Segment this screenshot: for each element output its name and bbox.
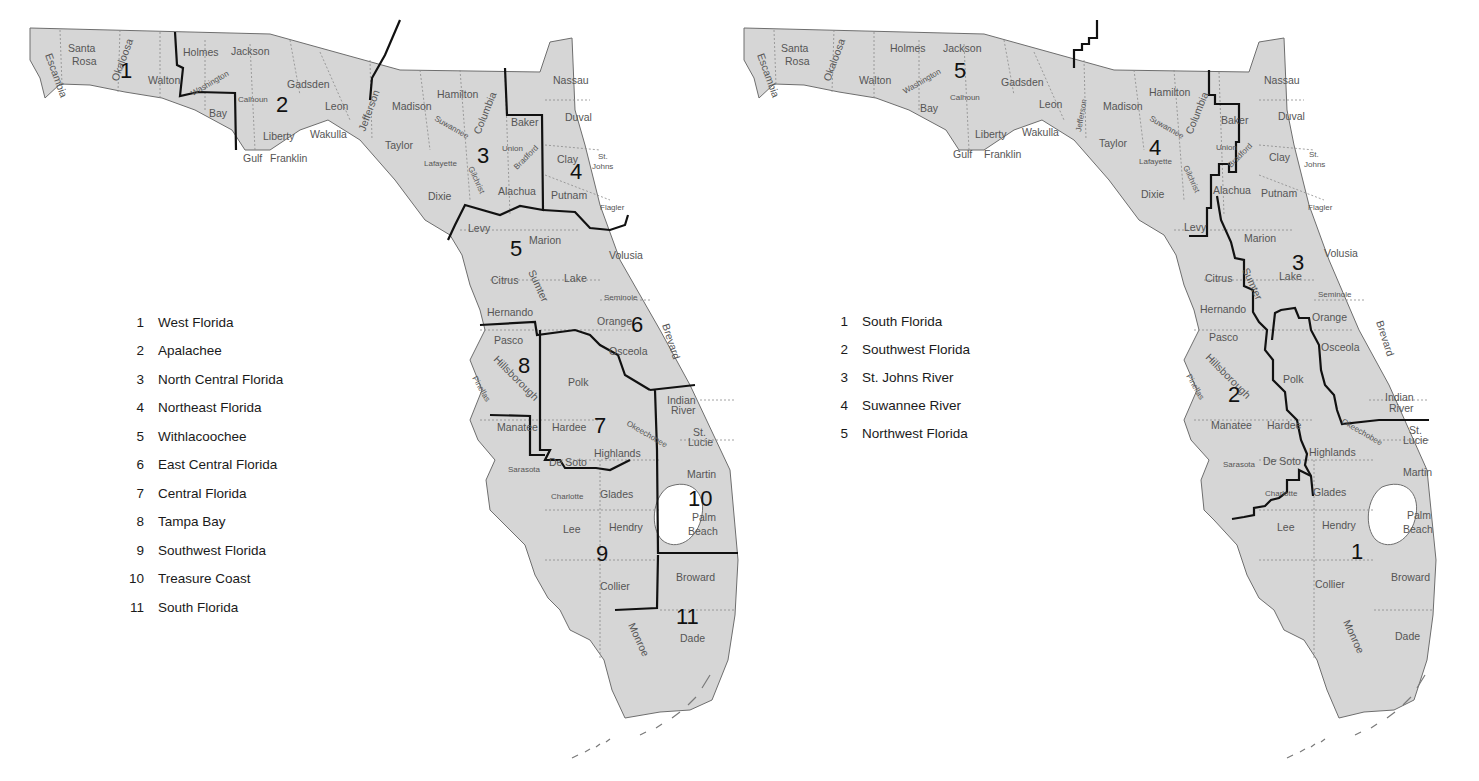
county-label-duval: Duval bbox=[1278, 110, 1305, 122]
legend-item: 2Southwest Florida bbox=[822, 335, 970, 363]
county-label-putnam: Putnam bbox=[551, 189, 587, 201]
legend-number: 3 bbox=[822, 370, 862, 385]
county-label-lee: Lee bbox=[563, 523, 581, 535]
county-label-madison: Madison bbox=[392, 100, 432, 112]
county-label-seminole: Seminole bbox=[1318, 290, 1352, 299]
county-label-glades: Glades bbox=[1313, 486, 1346, 498]
county-label-dixie: Dixie bbox=[1141, 188, 1164, 200]
legend-item: 4Suwannee River bbox=[822, 391, 970, 419]
county-label-bay: Bay bbox=[920, 102, 939, 114]
legend-number: 6 bbox=[118, 457, 158, 472]
county-label-st-lucie-2: Lucie bbox=[1403, 434, 1428, 446]
county-label-union: Union bbox=[502, 144, 523, 153]
region-number-7: 7 bbox=[594, 413, 606, 438]
county-label-pasco: Pasco bbox=[1209, 331, 1238, 343]
legend-label: Northeast Florida bbox=[158, 400, 262, 415]
county-label-calhoun: Calhoun bbox=[238, 95, 268, 104]
region-number-10: 10 bbox=[688, 486, 712, 511]
legend-item: 4Northeast Florida bbox=[118, 394, 283, 423]
county-label-nassau: Nassau bbox=[553, 74, 589, 86]
county-label-manatee: Manatee bbox=[497, 421, 538, 433]
county-label-hardee: Hardee bbox=[1267, 419, 1302, 431]
county-label-nassau: Nassau bbox=[1264, 74, 1300, 86]
legend-label: South Florida bbox=[862, 314, 942, 329]
county-label-taylor: Taylor bbox=[1099, 137, 1128, 149]
legend-item: 8Tampa Bay bbox=[118, 508, 283, 537]
county-label-gulf: Gulf bbox=[953, 148, 972, 160]
county-label-levy: Levy bbox=[1184, 221, 1207, 233]
county-label-glades: Glades bbox=[600, 488, 633, 500]
county-label-union: Union bbox=[1216, 143, 1237, 152]
county-label-hardee: Hardee bbox=[552, 421, 587, 433]
county-label-gulf: Gulf bbox=[243, 152, 262, 164]
county-label-hendry: Hendry bbox=[609, 521, 644, 533]
region-number-5: 5 bbox=[510, 236, 522, 261]
county-label-dade: Dade bbox=[680, 632, 705, 644]
county-label-volusia: Volusia bbox=[609, 249, 643, 261]
county-label-st-johns-2: Johns bbox=[592, 162, 613, 171]
county-label-highlands: Highlands bbox=[1309, 446, 1356, 458]
county-label-putnam: Putnam bbox=[1261, 187, 1297, 199]
county-label-orange: Orange bbox=[597, 315, 632, 327]
legend-number: 4 bbox=[118, 400, 158, 415]
legend-item: 1West Florida bbox=[118, 308, 283, 337]
county-label-alachua: Alachua bbox=[1213, 184, 1251, 196]
county-label-osceola: Osceola bbox=[1321, 341, 1360, 353]
county-label-hamilton: Hamilton bbox=[437, 88, 479, 100]
county-label-martin: Martin bbox=[687, 468, 716, 480]
legend-label: Tampa Bay bbox=[158, 514, 226, 529]
county-label-collier: Collier bbox=[600, 580, 630, 592]
county-label-gadsden: Gadsden bbox=[1001, 76, 1044, 88]
county-label-taylor: Taylor bbox=[385, 139, 414, 151]
county-label-sarasota: Sarasota bbox=[508, 465, 541, 474]
legend-label: Apalachee bbox=[158, 343, 222, 358]
legend-item: 1South Florida bbox=[822, 307, 970, 335]
county-label-de-soto: De Soto bbox=[1263, 455, 1301, 467]
county-label-santa-rosa-2: Rosa bbox=[72, 55, 97, 67]
legend-number: 11 bbox=[118, 600, 158, 615]
district-number-5: 5 bbox=[954, 58, 966, 83]
county-label-brevard: Brevard bbox=[1374, 319, 1397, 358]
legend-item: 11South Florida bbox=[118, 593, 283, 622]
district-number-4: 4 bbox=[1149, 135, 1161, 160]
legend-number: 9 bbox=[118, 543, 158, 558]
county-label-st-johns: St. bbox=[1309, 150, 1319, 159]
county-label-lee: Lee bbox=[1277, 521, 1295, 533]
county-label-charlotte: Charlotte bbox=[551, 492, 584, 501]
county-label-levy: Levy bbox=[468, 222, 491, 234]
legend-item: 2Apalachee bbox=[118, 337, 283, 366]
region-number-2: 2 bbox=[276, 92, 288, 117]
legend-label: East Central Florida bbox=[158, 457, 277, 472]
legend-label: South Florida bbox=[158, 600, 238, 615]
county-label-osceola: Osceola bbox=[609, 345, 648, 357]
county-label-palm-beach: Palm bbox=[1407, 509, 1431, 521]
county-label-st-johns: St. bbox=[598, 152, 608, 161]
county-label-pasco: Pasco bbox=[494, 334, 523, 346]
legend-number: 1 bbox=[822, 314, 862, 329]
county-label-duval: Duval bbox=[565, 111, 592, 123]
county-label-palm-beach-2: Beach bbox=[688, 525, 718, 537]
region-number-3: 3 bbox=[477, 143, 489, 168]
legend-item: 3St. Johns River bbox=[822, 363, 970, 391]
county-label-leon: Leon bbox=[325, 100, 349, 112]
county-label-baker: Baker bbox=[511, 116, 539, 128]
legend-label: West Florida bbox=[158, 315, 234, 330]
legend-water-management: 1South Florida 2Southwest Florida 3St. J… bbox=[822, 307, 970, 447]
county-label-jackson: Jackson bbox=[943, 42, 982, 54]
county-label-marion: Marion bbox=[1244, 232, 1276, 244]
legend-label: Central Florida bbox=[158, 486, 247, 501]
county-label-baker: Baker bbox=[1221, 114, 1249, 126]
county-label-charlotte: Charlotte bbox=[1265, 489, 1298, 498]
county-label-holmes: Holmes bbox=[890, 42, 926, 54]
county-label-citrus: Citrus bbox=[491, 274, 518, 286]
county-label-martin: Martin bbox=[1403, 466, 1432, 478]
county-label-seminole: Seminole bbox=[604, 293, 638, 302]
legend-item: 3North Central Florida bbox=[118, 365, 283, 394]
legend-item: 9Southwest Florida bbox=[118, 536, 283, 565]
county-label-holmes: Holmes bbox=[183, 46, 219, 58]
legend-label: St. Johns River bbox=[862, 370, 954, 385]
legend-label: Withlacoochee bbox=[158, 429, 247, 444]
county-label-santa-rosa-2: Rosa bbox=[785, 55, 810, 67]
county-label-citrus: Citrus bbox=[1205, 272, 1232, 284]
legend-number: 5 bbox=[822, 426, 862, 441]
